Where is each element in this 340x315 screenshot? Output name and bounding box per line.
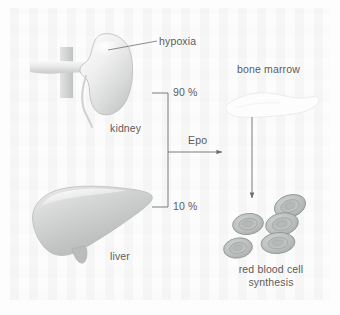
- label-liver: liver: [110, 250, 130, 263]
- bone-icon: [226, 93, 319, 118]
- kidney-icon: [30, 34, 133, 127]
- red-blood-cell-icon: [222, 191, 309, 261]
- bracket-icon: [152, 93, 168, 207]
- liver-icon: [33, 186, 153, 263]
- label-bone-marrow: bone marrow: [237, 63, 300, 76]
- label-rbc-synthesis-line1: red blood cell: [212, 263, 330, 276]
- figure-canvas: hypoxia kidney liver 90 % 10 % Epo bone …: [0, 0, 340, 315]
- label-hypoxia: hypoxia: [159, 35, 196, 48]
- label-percent-liver: 10 %: [173, 200, 198, 213]
- label-rbc-synthesis-line2: synthesis: [212, 276, 330, 289]
- label-percent-kidney: 90 %: [173, 86, 198, 99]
- label-kidney: kidney: [110, 122, 141, 135]
- label-epo: Epo: [188, 134, 207, 147]
